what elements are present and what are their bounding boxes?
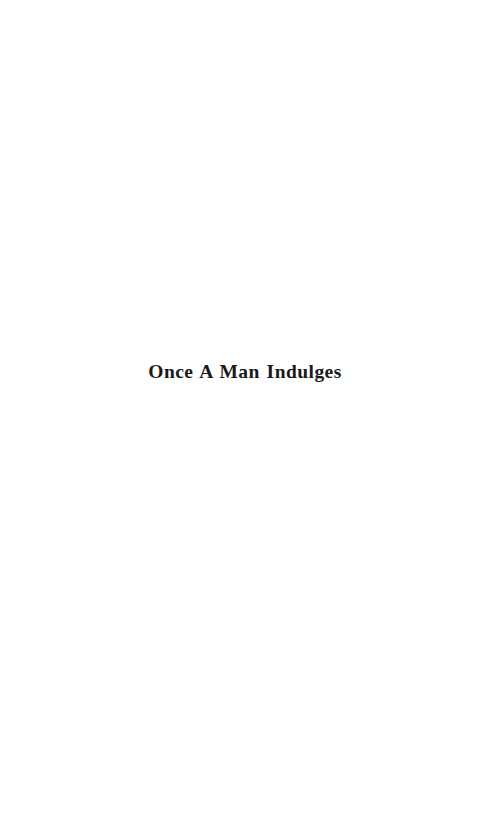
- page-title: Once A Man Indulges: [0, 360, 490, 384]
- section-title-block: Once A Man Indulges: [0, 360, 490, 384]
- scan-grain-overlay: [0, 0, 490, 817]
- scanned-page: Once A Man Indulges: [0, 0, 490, 817]
